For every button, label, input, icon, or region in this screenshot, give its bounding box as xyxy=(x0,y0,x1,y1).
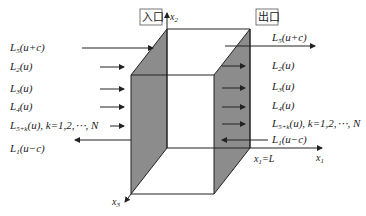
x2-label: x2 xyxy=(169,11,178,24)
left-wave-label: L5+k(u), k=1,2,⋯, N xyxy=(9,119,99,133)
inlet-face xyxy=(131,29,167,194)
right-wave-label: L1(u−c) xyxy=(271,133,307,147)
outlet-face xyxy=(214,29,250,194)
boundary-label: x1=L xyxy=(253,153,275,166)
x3-label: x3 xyxy=(111,196,120,209)
right-wave-labels: L5(u+c) L2(u) L3(u) L4(u) L5+k(u), k=1,2… xyxy=(271,31,361,147)
right-wave-label: L5+k(u), k=1,2,⋯, N xyxy=(271,117,361,131)
right-wave-label: L5(u+c) xyxy=(271,31,307,45)
right-wave-label: L2(u) xyxy=(271,59,295,73)
left-wave-labels: L5(u+c) L2(u) L3(u) L4(u) L5+k(u), k=1,2… xyxy=(9,41,99,156)
left-wave-label: L4(u) xyxy=(9,100,33,114)
inlet-label: 入口 xyxy=(142,11,164,24)
characteristic-wave-diagram: x2 x1 x3 x1=L 入口 出口 L5(u+c) L2(u) L3(u) … xyxy=(0,0,366,216)
right-wave-label: L3(u) xyxy=(271,80,295,94)
right-wave-label: L4(u) xyxy=(271,99,295,113)
left-wave-label: L5(u+c) xyxy=(9,41,45,55)
left-wave-label: L2(u) xyxy=(9,60,33,74)
left-wave-label: L3(u) xyxy=(9,82,33,96)
x3-axis xyxy=(125,194,131,202)
left-wave-label: L1(u−c) xyxy=(9,142,45,156)
x1-label: x1 xyxy=(315,152,324,165)
outlet-label: 出口 xyxy=(258,10,280,24)
